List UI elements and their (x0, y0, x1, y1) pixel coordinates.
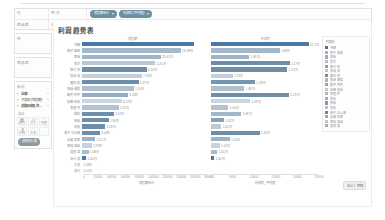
chart-bar[interactable] (82, 118, 109, 122)
shelf-pill-container-rows[interactable]: 销售额合计 利润率 (平均值) (87, 9, 371, 19)
chart-bar[interactable] (82, 124, 105, 128)
chart-bar[interactable] (211, 99, 250, 103)
chart-bar[interactable] (211, 131, 260, 135)
marks-tooltip-button[interactable]: ⬚ 工具 (28, 127, 38, 136)
sidebar-card-filters[interactable]: 筛选器 (14, 57, 52, 78)
color-legend-title: 子类别 (325, 39, 367, 44)
chart-bar[interactable] (82, 74, 142, 78)
chart-bar[interactable] (82, 80, 139, 84)
shelf-pill-profit-ratio[interactable]: 利润率 (平均值) (119, 10, 152, 18)
chart-bar[interactable] (82, 48, 181, 52)
chart-bar[interactable] (82, 131, 100, 135)
chart-bar[interactable] (211, 156, 214, 160)
color-legend: 子类别 书架椅子 座椅器具美术装订 机收纳 具复印 机电话 通信配件 附件标签 … (322, 36, 370, 132)
color-swatch (325, 106, 328, 109)
chart-bar-category-label: 椅子 座椅 (56, 48, 82, 53)
chart-bar[interactable] (211, 143, 220, 147)
chevron-down-icon[interactable]: ▾ (17, 92, 20, 95)
chart-bar[interactable] (211, 112, 241, 116)
chevron-down-icon[interactable] (47, 93, 49, 94)
chart-bar[interactable] (211, 86, 244, 90)
shelf-row-rows: 行 列 方 销售额合计 利润率 (平均值) (15, 9, 371, 20)
chevron-down-icon[interactable]: ▾ (17, 104, 20, 107)
axis-tick-label: 15000 (271, 175, 280, 179)
chart-panel-profit: 利润率 书架22.1万椅子 座椅1.89万器具1.06万美术2.17万装订 机2… (211, 36, 319, 186)
marks-mark-type-label[interactable]: 自动 (18, 111, 49, 116)
chart-bar[interactable] (211, 93, 289, 97)
marks-detail-button[interactable]: ⬆ 详细 (17, 127, 27, 136)
chart-bar-value-label: 23.41万 (162, 54, 173, 59)
marks-row-subcategory[interactable]: ▾ 子类别 (销售额) (17, 97, 49, 103)
marks-row-all[interactable]: ▾ 全部 (17, 91, 49, 97)
chart-bar-value-label: 1.05万 (231, 137, 240, 142)
chart-bar-value-label: 2.21万 (96, 137, 105, 142)
chart-bar-value-label: 1.01万 (83, 168, 92, 173)
chart-bar-value-label: 1.37万 (140, 80, 149, 85)
chart-bar[interactable] (211, 137, 230, 141)
chevron-down-icon[interactable] (47, 105, 49, 106)
chart-bar[interactable] (211, 150, 217, 154)
sidebar-card-columns-dropzone[interactable] (17, 43, 49, 50)
chart-bar[interactable] (82, 93, 128, 97)
chart-bar-value-label: 8.12万 (123, 99, 132, 104)
color-legend-item[interactable]: 其他 类 (325, 124, 367, 129)
app-root: 行 列 方 销售额合计 利润率 (平均值) 筛选器 行 方 子类别 名称 列 (0, 0, 385, 220)
chart-bar-value-label: 2.12万 (289, 67, 298, 72)
chart-bar-category-label: 系固 件 (56, 105, 82, 110)
chart-bar-row[interactable]: 总计1.01万 (56, 168, 209, 174)
color-swatch (325, 65, 328, 68)
chart-bar[interactable] (211, 118, 224, 122)
marks-extra-pill-container[interactable]: 总和(利润) (17, 138, 49, 146)
chart-panel-sales: 销售额 书架椅子 座椅26.39万器具23.41万美术4.20万装订 机4.10… (56, 36, 209, 186)
marks-color-button[interactable]: ▦ 颜色 (17, 117, 27, 126)
chart-bar[interactable] (211, 124, 221, 128)
chart-bar-row[interactable]: 总计 (211, 168, 319, 174)
chart-bar[interactable] (211, 61, 290, 65)
chart-bar[interactable] (82, 112, 114, 116)
chart-bar[interactable] (82, 86, 134, 90)
chevron-down-icon[interactable] (47, 99, 49, 100)
chart-bar[interactable] (82, 105, 119, 109)
chart-bar[interactable] (211, 74, 233, 78)
chart-bar[interactable] (82, 42, 194, 46)
chart-bar[interactable] (82, 137, 95, 141)
chart-bar-category-label: 美术 (56, 61, 82, 66)
chart-bar-value-label: 2.14万 (115, 111, 124, 116)
shelf-pill-sales[interactable]: 销售额合计 (90, 10, 117, 18)
shelf-group-label-filters: 筛选器 (15, 20, 49, 31)
status-badge[interactable]: 合计 明细 (343, 181, 366, 190)
chart-bar[interactable] (82, 156, 86, 160)
chart-bar[interactable] (211, 67, 287, 71)
marks-size-button[interactable]: ◎ 大小 (28, 117, 38, 126)
marks-row-profit[interactable]: ▾ 总和(利润) 名… (17, 103, 49, 109)
chart-bar[interactable] (82, 150, 89, 154)
chart-bar[interactable] (211, 105, 228, 109)
chart-bar[interactable] (82, 99, 122, 103)
chevron-down-icon[interactable] (112, 13, 114, 15)
axis-tick-label: 25000 (315, 175, 324, 179)
chart-bar[interactable] (211, 48, 280, 52)
sidebar-card-filters-dropzone[interactable] (17, 67, 49, 74)
marks-label-button[interactable]: ⬚ 标签 (39, 117, 49, 126)
axis-title-profit: 利润率_平均值 (211, 180, 319, 185)
chart-bar-value-label: 2.17万 (291, 61, 300, 66)
chart-bar-value-label: 1.09万 (251, 99, 260, 104)
marks-extra-pill-label: 总和(利润) (22, 140, 37, 143)
sidebar-card-columns[interactable]: 列 (14, 33, 52, 54)
page-title: 利润趋势表 (58, 25, 95, 35)
chart-bar-value-label: 1.89万 (281, 48, 290, 53)
chart-bar[interactable] (211, 55, 249, 59)
chart-bar[interactable] (82, 67, 147, 71)
chevron-down-icon[interactable] (147, 13, 149, 15)
color-swatch (325, 83, 328, 86)
chart-bar[interactable] (211, 42, 309, 46)
chart-bar[interactable] (211, 80, 255, 84)
marks-extra-pill[interactable]: 总和(利润) (18, 138, 40, 146)
chart-bar[interactable] (82, 143, 92, 147)
top-divider (20, 3, 365, 4)
chart-bar[interactable] (82, 61, 155, 65)
axis-tick-label: 100000 (148, 175, 159, 179)
chevron-down-icon[interactable]: ▾ (17, 98, 20, 101)
chart-bar[interactable] (82, 55, 161, 59)
chart-bar-category-label: 总计 (56, 168, 82, 173)
